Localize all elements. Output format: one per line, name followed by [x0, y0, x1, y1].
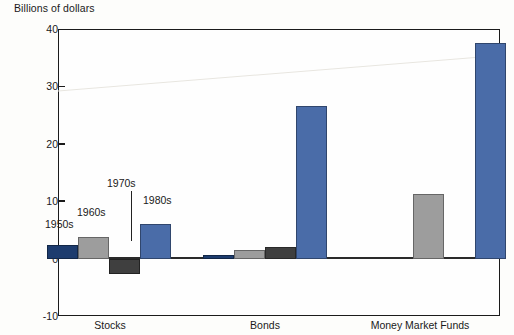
bar-stocks-1960s [78, 237, 109, 259]
y-tick-label: 30 [14, 81, 58, 91]
bar-stocks-1980s [140, 224, 171, 259]
bar-stocks-1970s [109, 259, 140, 274]
bar-bonds-1960s [234, 250, 265, 259]
category-label-stocks: Stocks [94, 319, 126, 331]
bar-stocks-1950s [47, 245, 78, 259]
y-tick-mark [58, 200, 65, 202]
leader-line-1970s [131, 191, 132, 241]
y-tick-mark [58, 86, 65, 88]
y-tick-mark [58, 143, 65, 145]
y-tick-label: -10 [14, 311, 58, 321]
y-tick-label: 40 [14, 24, 58, 34]
y-tick-label: 20 [14, 139, 58, 149]
bar-bonds-1980s [296, 106, 327, 258]
bar-money-market-funds-1980s [475, 43, 506, 259]
bar-bonds-1970s [265, 247, 296, 258]
decade-label-1960s: 1960s [77, 207, 106, 218]
category-label-money-market-funds: Money Market Funds [371, 319, 470, 331]
bar-money-market-funds-1960s [413, 194, 444, 258]
decade-label-1950s: 1950s [45, 219, 74, 230]
y-axis-title: Billions of dollars [14, 2, 95, 14]
y-tick-label: 10 [14, 196, 58, 206]
bar-bonds-1950s [203, 255, 234, 259]
decade-label-1980s: 1980s [143, 195, 172, 206]
category-label-bonds: Bonds [250, 319, 280, 331]
chart-root: Billions of dollars -10010203040 1950s19… [0, 0, 514, 335]
decade-label-1970s: 1970s [107, 178, 136, 189]
